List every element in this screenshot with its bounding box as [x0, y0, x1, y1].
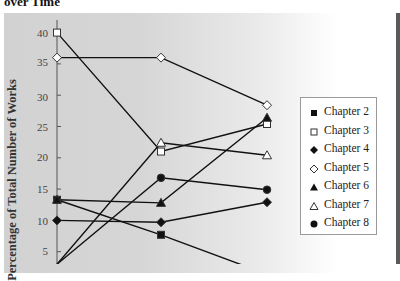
- legend-item-chapter-7: Chapter 7: [301, 198, 378, 214]
- open-diamond-marker-icon: [53, 53, 62, 62]
- filled-diamond-marker-icon: [157, 218, 166, 227]
- legend-item-chapter-2: Chapter 2: [301, 105, 378, 121]
- legend-label: Chapter 5: [324, 161, 369, 173]
- open-square-marker-icon: [158, 148, 165, 155]
- legend-label: Chapter 7: [324, 198, 369, 210]
- legend-item-chapter-6: Chapter 6: [301, 179, 378, 195]
- filled-circle-marker-icon: [263, 186, 271, 194]
- series-line-chapter-6: [57, 118, 267, 203]
- open-triangle-marker-icon: [157, 138, 166, 146]
- filled-diamond-icon: [309, 145, 319, 155]
- legend: Chapter 2 Chapter 3 Chapter 4 Chapter 5 …: [300, 97, 377, 235]
- filled-triangle-icon: [309, 182, 319, 192]
- open-diamond-marker-icon: [157, 53, 166, 62]
- legend-label: Chapter 3: [324, 124, 369, 136]
- filled-triangle-marker-icon: [263, 113, 272, 121]
- legend-label: Chapter 4: [324, 142, 369, 154]
- filled-diamond-marker-icon: [263, 198, 272, 207]
- legend-item-chapter-5: Chapter 5: [301, 161, 378, 177]
- legend-label: Chapter 2: [324, 105, 369, 117]
- open-triangle-icon: [309, 201, 319, 211]
- open-square-marker-icon: [54, 29, 61, 36]
- filled-square-icon: [309, 108, 319, 118]
- filled-diamond-marker-icon: [53, 216, 62, 225]
- legend-item-chapter-4: Chapter 4: [301, 142, 378, 158]
- filled-circle-icon: [309, 219, 319, 229]
- filled-square-marker-icon: [158, 231, 165, 238]
- filled-circle-marker-icon: [157, 174, 165, 182]
- series-line-chapter-5: [57, 58, 267, 106]
- series-line-chapter-3: [57, 33, 267, 152]
- legend-item-chapter-8: Chapter 8: [301, 216, 378, 232]
- legend-label: Chapter 8: [324, 216, 369, 228]
- open-square-icon: [309, 127, 319, 137]
- open-diamond-icon: [309, 164, 319, 174]
- legend-item-chapter-3: Chapter 3: [301, 124, 378, 140]
- legend-label: Chapter 6: [324, 179, 369, 191]
- open-diamond-marker-icon: [263, 101, 272, 110]
